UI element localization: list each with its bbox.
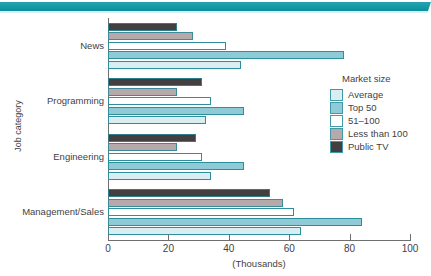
bar bbox=[108, 153, 202, 161]
legend-swatch bbox=[330, 128, 343, 140]
x-axis-tick bbox=[289, 234, 290, 241]
bar bbox=[108, 32, 193, 40]
bar bbox=[108, 88, 177, 96]
x-axis-tick-label: 100 bbox=[390, 243, 430, 254]
category-label: Management/Sales bbox=[4, 206, 104, 217]
x-axis-tick bbox=[229, 234, 230, 241]
x-axis-tick-label: 80 bbox=[330, 243, 370, 254]
bar bbox=[108, 172, 211, 180]
bar bbox=[108, 162, 244, 170]
legend-item: Average bbox=[330, 88, 431, 101]
x-axis-tick bbox=[350, 234, 351, 241]
top-teal-banner bbox=[0, 2, 431, 11]
legend-item: Public TV bbox=[330, 140, 431, 153]
x-axis-tick bbox=[108, 234, 109, 241]
legend-label: Average bbox=[348, 89, 383, 100]
bar bbox=[108, 218, 362, 226]
legend-swatch bbox=[330, 115, 343, 127]
legend-title: Market size bbox=[342, 73, 431, 84]
bar bbox=[108, 143, 177, 151]
category-labels: NewsProgrammingEngineeringManagement/Sal… bbox=[0, 18, 104, 240]
x-axis-line bbox=[108, 240, 411, 241]
bar bbox=[108, 97, 211, 105]
bar bbox=[108, 199, 283, 207]
bar bbox=[108, 227, 301, 235]
category-label: Engineering bbox=[4, 151, 104, 162]
legend-label: 51–100 bbox=[348, 115, 380, 126]
legend-swatch bbox=[330, 141, 343, 153]
legend-swatch bbox=[330, 102, 343, 114]
bar bbox=[108, 189, 270, 197]
x-axis-title: (Thousands) bbox=[108, 258, 410, 269]
bar bbox=[108, 23, 177, 31]
category-label: Programming bbox=[4, 95, 104, 106]
bar bbox=[108, 134, 196, 142]
x-axis-tick bbox=[168, 234, 169, 241]
legend-rows: AverageTop 5051–100Less than 100Public T… bbox=[330, 88, 431, 153]
legend-item: 51–100 bbox=[330, 114, 431, 127]
legend-label: Public TV bbox=[348, 141, 388, 152]
x-axis-tick-label: 0 bbox=[88, 243, 128, 254]
legend-label: Top 50 bbox=[348, 102, 377, 113]
bar bbox=[108, 51, 344, 59]
category-label: News bbox=[4, 40, 104, 51]
x-axis-tick-label: 40 bbox=[209, 243, 249, 254]
bar bbox=[108, 116, 206, 124]
bar bbox=[108, 42, 226, 50]
x-axis-tick-label: 60 bbox=[269, 243, 309, 254]
legend-item: Less than 100 bbox=[330, 127, 431, 140]
legend: Market size AverageTop 5051–100Less than… bbox=[330, 73, 431, 153]
bar-chart: Job category NewsProgrammingEngineeringM… bbox=[0, 13, 431, 276]
x-axis-tick bbox=[410, 234, 411, 241]
bar bbox=[108, 61, 241, 69]
bar bbox=[108, 107, 244, 115]
x-axis-tick-label: 20 bbox=[148, 243, 188, 254]
bar bbox=[108, 208, 294, 216]
legend-label: Less than 100 bbox=[348, 128, 408, 139]
bar bbox=[108, 78, 202, 86]
legend-swatch bbox=[330, 89, 343, 101]
legend-item: Top 50 bbox=[330, 101, 431, 114]
